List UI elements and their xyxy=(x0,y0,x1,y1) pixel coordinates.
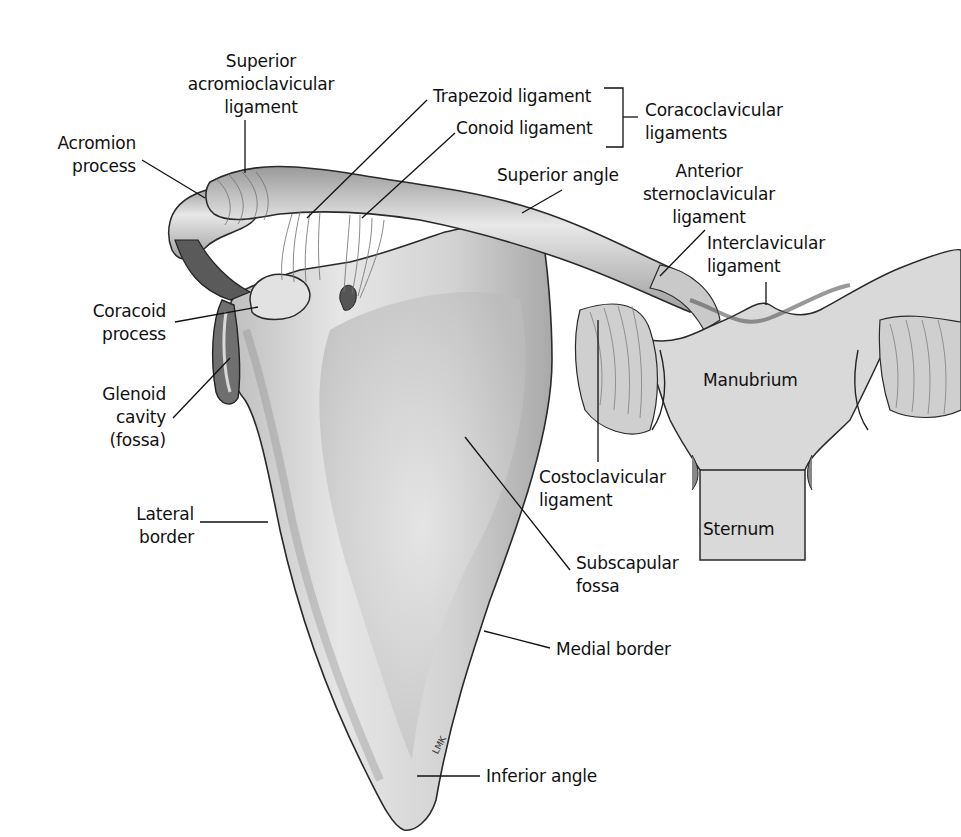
label-superior-angle: Superior angle xyxy=(497,164,619,187)
label-coracoid-process: Coracoid process xyxy=(60,300,166,346)
label-subscapular-fossa: Subscapular fossa xyxy=(576,552,678,598)
sternum xyxy=(575,250,961,560)
anatomy-diagram: Superior acromioclavicular ligament Acro… xyxy=(0,0,961,837)
label-anterior-sternoclavicular-ligament: Anterior sternoclavicular ligament xyxy=(638,160,780,229)
label-interclavicular-ligament: Interclavicular ligament xyxy=(707,232,825,278)
label-conoid-ligament: Conoid ligament xyxy=(456,117,592,140)
label-costoclavicular-ligament: Costoclavicular ligament xyxy=(539,466,666,512)
label-glenoid-cavity: Glenoid cavity (fossa) xyxy=(60,383,166,452)
label-lateral-border: Lateral border xyxy=(96,503,194,549)
label-medial-border: Medial border xyxy=(556,638,671,661)
label-superior-acromioclavicular-ligament: Superior acromioclavicular ligament xyxy=(185,50,337,119)
label-trapezoid-ligament: Trapezoid ligament xyxy=(433,85,591,108)
label-inferior-angle: Inferior angle xyxy=(486,765,597,788)
label-acromion-process: Acromion process xyxy=(40,132,136,178)
label-manubrium: Manubrium xyxy=(703,369,798,392)
label-coracoclavicular-ligaments: Coracoclavicular ligaments xyxy=(645,99,783,145)
label-sternum: Sternum xyxy=(703,518,774,541)
